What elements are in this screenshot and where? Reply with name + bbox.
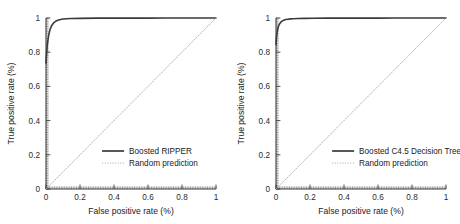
- y-tick-label: 0.8: [259, 48, 271, 57]
- roc-plot-left: 00.20.40.60.8100.20.40.60.81False positi…: [0, 0, 230, 224]
- y-tick-label: 0.2: [259, 151, 271, 160]
- x-tick-label: 0.6: [142, 193, 154, 202]
- y-tick-label: 0.4: [259, 117, 271, 126]
- x-tick-label: 1: [444, 193, 449, 202]
- x-tick-label: 0: [44, 193, 49, 202]
- legend: Boosted C4.5 Decision TreeRandom predict…: [332, 147, 460, 168]
- x-axis-title: False positive rate (%): [318, 206, 404, 216]
- x-tick-label: 0: [274, 193, 279, 202]
- series-line-boosted-c4-5-decision-tree: [276, 18, 446, 45]
- legend: Boosted RIPPERRandom prediction: [102, 147, 198, 168]
- x-tick-label: 0.4: [338, 193, 350, 202]
- y-tick-label: 1: [265, 14, 270, 23]
- x-tick-label: 0.4: [108, 193, 120, 202]
- x-tick-label: 0.2: [74, 193, 86, 202]
- y-tick-label: 0.2: [29, 151, 41, 160]
- series-line-boosted-ripper: [46, 18, 216, 63]
- y-tick-label: 0.6: [259, 82, 271, 91]
- major-ticks: 00.20.40.60.8100.20.40.60.81: [259, 14, 449, 202]
- y-tick-label: 0.8: [29, 48, 41, 57]
- x-tick-label: 0.8: [176, 193, 188, 202]
- legend-label: Random prediction: [359, 159, 428, 168]
- x-axis-title: False positive rate (%): [88, 206, 174, 216]
- x-tick-label: 1: [214, 193, 219, 202]
- legend-label: Boosted C4.5 Decision Tree: [359, 147, 460, 156]
- legend-label: Boosted RIPPER: [129, 147, 192, 156]
- y-tick-label: 0.6: [29, 82, 41, 91]
- y-tick-label: 1: [35, 14, 40, 23]
- y-tick-label: 0: [265, 185, 270, 194]
- roc-panel-right: 00.20.40.60.8100.20.40.60.81False positi…: [230, 0, 460, 224]
- roc-figure: 00.20.40.60.8100.20.40.60.81False positi…: [0, 0, 460, 224]
- x-tick-label: 0.8: [406, 193, 418, 202]
- roc-plot-right: 00.20.40.60.8100.20.40.60.81False positi…: [230, 0, 460, 224]
- y-axis-title: True positive rate (%): [6, 62, 16, 144]
- roc-panel-left: 00.20.40.60.8100.20.40.60.81False positi…: [0, 0, 230, 224]
- x-tick-label: 0.6: [372, 193, 384, 202]
- y-tick-label: 0: [35, 185, 40, 194]
- y-tick-label: 0.4: [29, 117, 41, 126]
- x-tick-label: 0.2: [304, 193, 316, 202]
- legend-label: Random prediction: [129, 159, 198, 168]
- y-axis-title: True positive rate (%): [236, 62, 246, 144]
- major-ticks: 00.20.40.60.8100.20.40.60.81: [29, 14, 219, 202]
